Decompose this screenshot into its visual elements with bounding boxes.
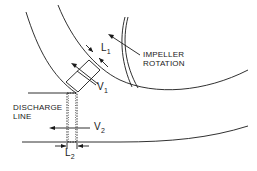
discharge-line-label: DISCHARGE LINE	[13, 103, 62, 121]
impeller-rotation-line2: ROTATION	[143, 59, 185, 68]
L2-label: L2	[65, 148, 75, 158]
V1-arrowhead	[71, 63, 77, 68]
V2-base: V	[94, 121, 101, 132]
V2-arrowhead	[49, 126, 55, 130]
impeller-rotation-arrowhead	[108, 34, 114, 39]
fluid-element-1	[66, 60, 100, 92]
V2-sub: 2	[101, 127, 105, 134]
diagram-canvas: L1 IMPELLER ROTATION V1 DISCHARGE LINE V…	[0, 0, 257, 171]
impeller-arc	[58, 5, 248, 90]
casing-outer-arc	[26, 12, 76, 93]
discharge-line-line2: LINE	[13, 112, 62, 121]
L2-sub: 2	[71, 153, 75, 160]
impeller-rotation-label: IMPELLER ROTATION	[143, 50, 185, 68]
V1-label: V1	[97, 82, 108, 92]
L2-base: L	[65, 147, 71, 158]
discharge-line-line1: DISCHARGE	[13, 103, 62, 112]
L2-arrowhead-right	[78, 144, 83, 148]
L1-base: L	[101, 42, 107, 53]
L1-label: L1	[101, 43, 111, 53]
impeller-blade-outer	[122, 17, 132, 87]
V1-arrow-line	[74, 65, 98, 84]
V2-label: V2	[94, 122, 105, 132]
L1-sub: 1	[107, 48, 111, 55]
diagram-drawing	[0, 0, 257, 171]
V1-sub: 1	[104, 87, 108, 94]
impeller-rotation-line1: IMPELLER	[143, 50, 185, 59]
V1-base: V	[97, 81, 104, 92]
